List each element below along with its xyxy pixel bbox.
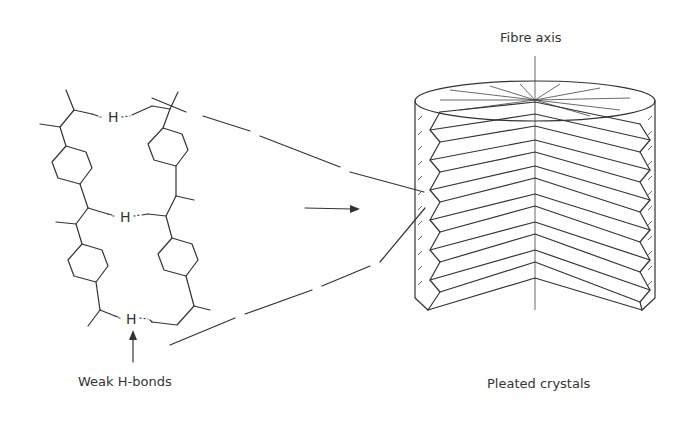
hydrogen-atom-3: H [126, 311, 137, 327]
weak-h-bonds-label: Weak H-bonds [78, 374, 172, 389]
fibre-axis-label: Fibre axis [500, 30, 562, 45]
diagram-canvas: H H H [0, 0, 677, 423]
left-chain [40, 90, 115, 326]
right-chain [148, 92, 210, 325]
hydrogen-atom-2: H [120, 209, 131, 225]
h-bonds: H H H [92, 106, 152, 327]
pleated-cylinder [415, 56, 655, 310]
pleated-crystals-label: Pleated crystals [487, 376, 590, 391]
hydrogen-atom-1: H [108, 109, 119, 125]
magnification-arrow [305, 205, 360, 213]
h-bond-pointer [129, 330, 137, 362]
pleats [428, 102, 650, 310]
